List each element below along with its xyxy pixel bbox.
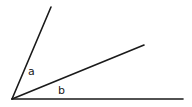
angle-label-b: b	[58, 84, 65, 97]
angle-diagram: a b	[0, 0, 192, 107]
angle-label-a: a	[28, 65, 35, 78]
